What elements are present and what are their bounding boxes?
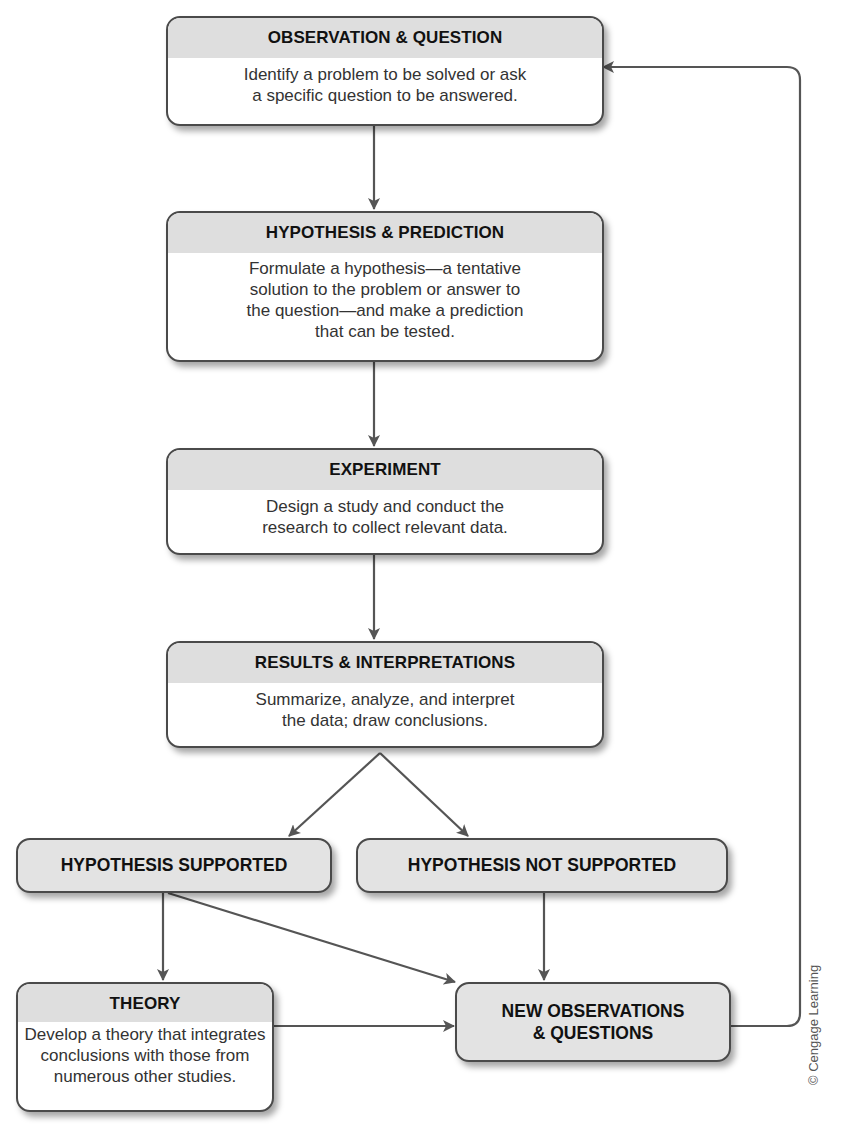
hypothesis-supported-box: HYPOTHESIS SUPPORTED <box>16 838 332 893</box>
arrow-results-to-not-supported <box>380 753 468 836</box>
experiment-heading: EXPERIMENT <box>168 450 602 490</box>
new-observations-line-1: NEW OBSERVATIONS <box>502 1000 685 1022</box>
theory-description: Develop a theory that integrates conclus… <box>18 1022 272 1087</box>
observation-heading: OBSERVATION & QUESTION <box>168 18 602 58</box>
results-interpretations-box: RESULTS & INTERPRETATIONS Summarize, ana… <box>166 641 604 748</box>
hypothesis-supported-label: HYPOTHESIS SUPPORTED <box>61 855 288 876</box>
hypothesis-prediction-box: HYPOTHESIS & PREDICTION Formulate a hypo… <box>166 211 604 362</box>
hypothesis-not-supported-label: HYPOTHESIS NOT SUPPORTED <box>408 855 676 876</box>
connector-arrows <box>0 0 841 1145</box>
theory-heading: THEORY <box>18 984 272 1022</box>
observation-question-box: OBSERVATION & QUESTION Identify a proble… <box>166 16 604 126</box>
hypothesis-not-supported-box: HYPOTHESIS NOT SUPPORTED <box>356 838 728 893</box>
new-observations-box: NEW OBSERVATIONS & QUESTIONS <box>455 982 731 1062</box>
results-description: Summarize, analyze, and interpret the da… <box>168 683 602 731</box>
experiment-box: EXPERIMENT Design a study and conduct th… <box>166 448 604 555</box>
arrow-results-to-supported <box>289 753 380 836</box>
experiment-description: Design a study and conduct the research … <box>168 490 602 538</box>
hypothesis-heading: HYPOTHESIS & PREDICTION <box>168 213 602 253</box>
arrow-supported-to-new-observations <box>168 893 455 982</box>
copyright-credit: © Cengage Learning <box>806 965 821 1085</box>
observation-description: Identify a problem to be solved or ask a… <box>168 58 602 106</box>
results-heading: RESULTS & INTERPRETATIONS <box>168 643 602 683</box>
theory-box: THEORY Develop a theory that integrates … <box>16 982 274 1112</box>
new-observations-line-2: & QUESTIONS <box>533 1022 654 1044</box>
hypothesis-description: Formulate a hypothesis—a tentative solut… <box>168 253 602 342</box>
